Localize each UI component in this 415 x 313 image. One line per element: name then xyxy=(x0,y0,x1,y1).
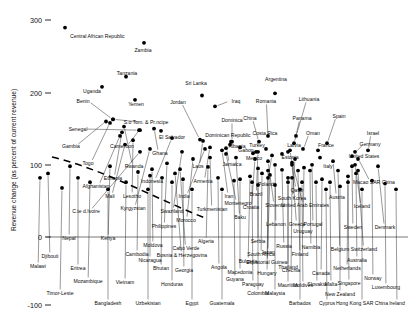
data-point-label: Swaziland xyxy=(160,208,183,214)
data-point xyxy=(146,187,150,191)
leader-line xyxy=(298,173,300,250)
data-point-label: Malta xyxy=(325,281,338,287)
leader-line xyxy=(234,183,235,275)
data-point-label: Romania xyxy=(256,98,277,104)
data-point xyxy=(108,121,112,125)
leader-line xyxy=(115,135,122,175)
data-point xyxy=(308,169,312,173)
data-point xyxy=(318,156,322,160)
data-point xyxy=(159,129,163,133)
data-point-label: Gabon xyxy=(238,147,253,153)
data-point-labels: Central African RepublicZambiaTanzaniaUg… xyxy=(30,33,405,306)
data-point xyxy=(138,150,142,154)
data-point-label: Denmark xyxy=(375,224,396,230)
data-point-label: Bulgaria xyxy=(239,258,258,264)
data-point xyxy=(111,117,115,121)
leader-line xyxy=(316,185,317,281)
data-point xyxy=(290,176,294,180)
data-point-label: Central African Republic xyxy=(70,33,125,39)
data-point xyxy=(191,157,195,161)
data-point-label: Malawi xyxy=(30,263,46,269)
data-point xyxy=(180,150,184,154)
data-point-label: Portugal xyxy=(304,221,323,227)
data-point-label: Iran xyxy=(225,193,234,199)
data-point xyxy=(270,154,274,158)
leader-line xyxy=(338,173,340,245)
data-point xyxy=(38,176,42,180)
y-tick-label: 300 xyxy=(30,16,42,25)
data-point-label: Canada xyxy=(312,270,330,276)
data-point-label: Cabo Verde xyxy=(173,245,200,251)
data-point xyxy=(280,168,284,172)
data-point-label: Belgium xyxy=(331,246,349,252)
leader-line xyxy=(91,103,111,118)
leader-line xyxy=(88,185,90,278)
data-point-label: Cameroon xyxy=(110,143,134,149)
data-point xyxy=(120,130,124,134)
data-point-label: Dominican Republic xyxy=(205,132,251,138)
data-point xyxy=(68,164,72,168)
data-point-label: Sweden xyxy=(344,224,363,230)
data-point-label: Bangladesh xyxy=(95,300,122,306)
leader-line xyxy=(222,153,227,193)
data-point-label: France xyxy=(318,142,334,148)
data-point xyxy=(296,169,300,173)
data-point-label: Finland xyxy=(292,251,309,257)
data-point xyxy=(336,169,340,173)
leader-line xyxy=(359,161,368,179)
leader-line xyxy=(352,169,353,224)
data-point xyxy=(60,186,64,190)
data-points xyxy=(38,26,398,192)
data-point xyxy=(63,26,67,30)
data-point xyxy=(273,163,277,167)
data-point xyxy=(76,176,80,180)
data-point-label: Mali xyxy=(105,193,114,199)
data-point xyxy=(131,138,135,142)
data-point-label: Benin xyxy=(76,98,89,104)
leader-line xyxy=(267,104,268,133)
data-point xyxy=(200,94,204,98)
data-point-label: Costa Rica xyxy=(253,130,278,136)
leader-line xyxy=(372,183,373,274)
data-point xyxy=(338,185,342,189)
data-point-label: Qatar xyxy=(291,187,304,193)
data-point xyxy=(314,180,318,184)
data-point-label: Gambia xyxy=(62,143,80,149)
data-point-label: Spain xyxy=(332,113,345,119)
data-point-label: Angola xyxy=(211,264,227,270)
data-point xyxy=(122,125,126,129)
leader-line xyxy=(69,169,70,235)
data-point-label: Uganda xyxy=(83,88,101,94)
data-point xyxy=(206,165,210,169)
data-point-label: Morocco xyxy=(176,217,196,223)
data-point xyxy=(350,164,354,168)
data-point-label: Malaysia xyxy=(265,290,285,296)
y-tick-label: 100 xyxy=(30,161,42,170)
data-point-label: Poland xyxy=(258,181,274,187)
data-point xyxy=(294,134,298,138)
data-point xyxy=(324,187,328,191)
data-point xyxy=(266,159,270,163)
leader-line xyxy=(252,185,253,281)
data-point-label: Tanzania xyxy=(117,70,138,76)
data-point-label: Jamaica xyxy=(223,161,242,167)
data-point xyxy=(165,161,169,165)
data-point xyxy=(148,147,152,151)
data-point-label: Macedonia xyxy=(228,269,253,275)
leader-line xyxy=(48,176,50,252)
data-point-label: Laos xyxy=(192,163,203,169)
data-point xyxy=(136,170,140,174)
data-point-label: Brazil xyxy=(250,191,263,197)
data-point-label: Moldova xyxy=(143,242,162,248)
data-point-label: Georgia xyxy=(175,267,193,273)
data-point-label: Russia xyxy=(276,243,292,249)
data-point xyxy=(320,177,324,181)
data-point-label: Greece xyxy=(289,221,306,227)
leader-line xyxy=(155,131,158,149)
data-point xyxy=(346,180,350,184)
data-point-label: Czechia xyxy=(282,267,301,273)
data-point xyxy=(203,147,207,151)
data-point xyxy=(46,172,50,176)
data-point xyxy=(152,127,156,131)
leader-line xyxy=(356,176,357,256)
